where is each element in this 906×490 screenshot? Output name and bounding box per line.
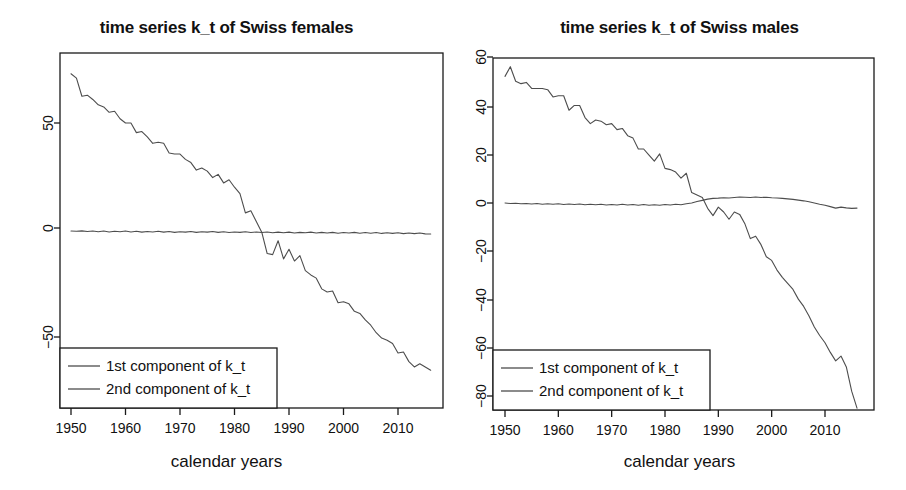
series-line-first-component	[71, 74, 431, 370]
y-tick-label: −40	[473, 288, 489, 312]
y-tick-label: 60	[473, 49, 489, 65]
x-tick-label: 2010	[382, 420, 413, 436]
y-tick-label: −60	[473, 336, 489, 360]
x-axis-label-males: calendar years	[453, 452, 906, 472]
x-tick-label: 1980	[649, 422, 680, 438]
panel-swiss-females: time series k_t of Swiss females 500−501…	[0, 0, 453, 490]
x-tick-label: 1950	[489, 422, 520, 438]
x-tick-label: 1990	[273, 420, 304, 436]
y-tick-label: 20	[473, 147, 489, 163]
legend-label: 2nd component of k_t	[539, 382, 684, 399]
x-tick-label: 1980	[219, 420, 250, 436]
y-tick-label: −80	[473, 384, 489, 408]
legend-label: 1st component of k_t	[539, 359, 679, 376]
y-tick-label: 0	[40, 224, 56, 232]
y-tick-label: 40	[473, 99, 489, 115]
x-tick-label: 2010	[809, 422, 840, 438]
x-tick-label: 2000	[756, 422, 787, 438]
x-tick-label: 1990	[703, 422, 734, 438]
plot-area-females: 500−5019501960197019801990200020101st co…	[0, 0, 453, 490]
y-tick-label: −20	[473, 239, 489, 263]
x-tick-label: 1970	[164, 420, 195, 436]
x-axis-label-females: calendar years	[0, 452, 453, 472]
y-tick-label: 0	[473, 199, 489, 207]
series-line-second-component	[505, 197, 857, 208]
x-tick-label: 2000	[328, 420, 359, 436]
x-tick-label: 1960	[110, 420, 141, 436]
x-tick-label: 1970	[596, 422, 627, 438]
x-tick-label: 1960	[543, 422, 574, 438]
legend-label: 2nd component of k_t	[106, 380, 251, 397]
y-tick-label: 50	[40, 115, 56, 131]
figure-container: time series k_t of Swiss females 500−501…	[0, 0, 906, 490]
panel-swiss-males: time series k_t of Swiss males 6040200−2…	[453, 0, 906, 490]
legend-label: 1st component of k_t	[106, 357, 246, 374]
x-tick-label: 1950	[55, 420, 86, 436]
y-tick-label: −50	[40, 325, 56, 349]
plot-area-males: 6040200−20−40−60−80195019601970198019902…	[453, 0, 906, 490]
series-group	[71, 74, 431, 370]
series-line-second-component	[71, 231, 431, 234]
